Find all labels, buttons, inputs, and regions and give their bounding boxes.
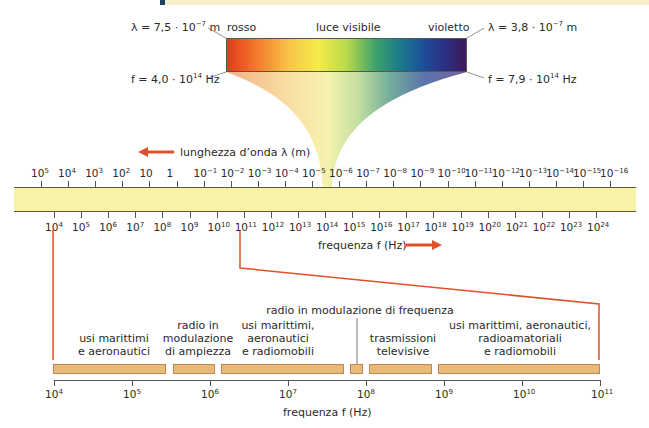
wavelength-tick-label: 10−5 (302, 167, 326, 180)
frequency-tick-label: 107 (126, 221, 144, 234)
frequency-tick-label: 1022 (533, 221, 555, 234)
radio-tick-label: 109 (435, 388, 453, 401)
frequency-tick (162, 212, 163, 218)
radio-tick (210, 380, 211, 386)
wavelength-tick-label: 10−16 (600, 167, 628, 180)
wavelength-tick-label: 10−9 (410, 167, 434, 180)
wavelength-tick-label: 105 (31, 167, 49, 180)
frequency-axis-label: frequenza f (Hz) (318, 239, 407, 252)
band-segment-maritime-amateur (438, 364, 600, 374)
band-segment-maritime-mobile (221, 364, 344, 374)
frequency-tick (135, 212, 136, 218)
radio-tick-label: 107 (279, 388, 297, 401)
band-label-fm-radio: radio in modulazione di frequenza (260, 304, 460, 317)
violet-frequency-value: f = 7,9 · 1014 Hz (488, 73, 577, 86)
frequency-tick (488, 212, 489, 218)
frequency-tick-label: 1018 (424, 221, 446, 234)
band-segment-television (369, 364, 432, 374)
band-label-am-radio: radio inmodulazionedi ampiezza (158, 319, 238, 358)
frequency-tick-label: 1014 (316, 221, 338, 234)
frequency-tick-label: 106 (99, 221, 117, 234)
frequency-tick-label: 1015 (343, 221, 365, 234)
wavelength-tick-label: 103 (85, 167, 103, 180)
frequency-tick-label: 1010 (208, 221, 230, 234)
wavelength-tick-label: 10 (139, 167, 152, 180)
wavelength-tick-label: 10−3 (248, 167, 272, 180)
wavelength-tick-label: 10−4 (275, 167, 299, 180)
radio-tick-label: 1010 (513, 388, 535, 401)
frequency-tick-label: 1012 (262, 221, 284, 234)
frequency-tick-label: 1016 (370, 221, 392, 234)
frequency-tick (406, 212, 407, 218)
radio-tick (288, 380, 289, 386)
red-frequency-value: f = 4,0 · 1014 Hz (131, 73, 220, 86)
frequency-tick-label: 1019 (452, 221, 474, 234)
radio-tick-label: 104 (45, 388, 63, 401)
frequency-tick-label: 1020 (479, 221, 501, 234)
frequency-tick-label: 1013 (289, 221, 311, 234)
frequency-tick (379, 212, 380, 218)
wavelength-tick-label: 10−11 (465, 167, 493, 180)
frequency-tick (54, 212, 55, 218)
wavelength-tick-label: 102 (112, 167, 130, 180)
frequency-tick (325, 212, 326, 218)
wavelength-tick-label: 10−7 (356, 167, 380, 180)
frequency-tick-label: 109 (181, 221, 199, 234)
band-label-maritime-mobile: usi marittimi,aeronauticie radiomobili (228, 319, 328, 358)
wavelength-tick-label: 10−12 (492, 167, 520, 180)
radio-tick-label: 1011 (591, 388, 613, 401)
frequency-tick-label: 1017 (397, 221, 419, 234)
radio-frequency-axis (54, 380, 600, 381)
violet-wavelength-value: λ = 3,8 · 10−7 m (488, 21, 577, 34)
wavelength-tick-label: 10−13 (519, 167, 547, 180)
radio-tick-label: 106 (201, 388, 219, 401)
frequency-tick (217, 212, 218, 218)
wavelength-tick-label: 10−2 (221, 167, 245, 180)
band-label-television: trasmissionitelevisive (363, 332, 443, 358)
radio-tick (600, 380, 601, 386)
band-segment-fm (350, 364, 363, 374)
red-wavelength-value: λ = 7,5 · 10−7 m (131, 21, 220, 34)
frequency-tick-label: 1011 (235, 221, 257, 234)
frequency-tick-label: 1024 (587, 221, 609, 234)
visible-light-label: luce visibile (316, 21, 381, 34)
frequency-tick (596, 212, 597, 218)
frequency-tick-label: 1021 (506, 221, 528, 234)
band-segment-maritime (53, 364, 166, 374)
radio-tick-label: 105 (123, 388, 141, 401)
band-label-maritime-amateur: usi marittimi, aeronautici,radioamatoria… (440, 319, 600, 358)
wavelength-axis-label: lunghezza d’onda λ (m) (180, 146, 310, 159)
frequency-tick (244, 212, 245, 218)
radio-tick (132, 380, 133, 386)
wavelength-tick-label: 10−1 (194, 167, 218, 180)
spectrum-band (14, 187, 636, 212)
wavelength-tick-label: 10−15 (573, 167, 601, 180)
wavelength-tick-label: 10−6 (329, 167, 353, 180)
radio-tick (522, 380, 523, 386)
radio-tick (444, 380, 445, 386)
frequency-tick (352, 212, 353, 218)
frequency-tick (190, 212, 191, 218)
frequency-tick (542, 212, 543, 218)
frequency-tick (298, 212, 299, 218)
frequency-tick (569, 212, 570, 218)
violet-label: violetto (428, 21, 469, 34)
wavelength-tick-label: 1 (167, 167, 174, 180)
frequency-tick-label: 1023 (560, 221, 582, 234)
wavelength-tick-label: 104 (58, 167, 76, 180)
frequency-tick-label: 108 (153, 221, 171, 234)
radio-axis-label: frequenza f (Hz) (283, 406, 372, 419)
frequency-tick (108, 212, 109, 218)
wavelength-tick-label: 10−14 (546, 167, 574, 180)
wavelength-tick-label: 10−8 (383, 167, 407, 180)
frequency-tick (515, 212, 516, 218)
visible-spectrum-box (226, 38, 467, 72)
radio-tick-label: 108 (357, 388, 375, 401)
frequency-tick (81, 212, 82, 218)
band-label-maritime: usi marittimie aeronautici (64, 332, 164, 358)
frequency-tick (271, 212, 272, 218)
band-segment-am (173, 364, 215, 374)
frequency-tick-label: 105 (72, 221, 90, 234)
frequency-tick (433, 212, 434, 218)
wavelength-tick-label: 10−10 (438, 167, 466, 180)
